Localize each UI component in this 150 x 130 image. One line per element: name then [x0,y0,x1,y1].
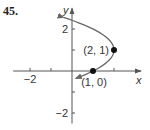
point-label: (1, 0) [81,76,107,88]
point-label: (2, 1) [83,44,109,56]
x-tick-label: −2 [24,73,37,85]
x-axis-label: x [135,74,142,86]
data-point [90,68,96,74]
graph: xy−22−2 (2, 1)(1, 0) [0,0,150,130]
y-axis-label: y [62,4,70,16]
data-point [111,47,117,53]
y-tick-label: −2 [55,107,68,119]
y-tick-label: 2 [62,23,68,35]
